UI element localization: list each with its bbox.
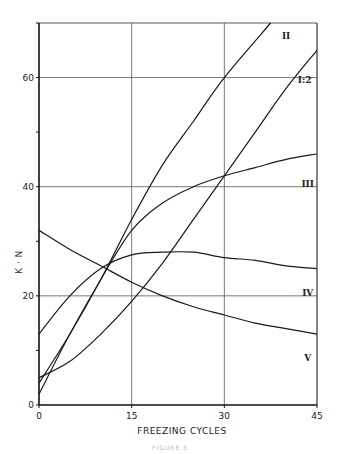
y-tick-label: 40	[23, 182, 35, 192]
y-tick-label: 0	[28, 400, 34, 410]
y-axis-title: K · N	[14, 250, 24, 274]
x-tick-label: 15	[126, 411, 137, 421]
series-label-ii: II	[282, 31, 290, 41]
line-chart: 02040600153045 III:2IIIIVV FREEZING CYCL…	[0, 0, 340, 454]
curve-v	[39, 230, 317, 334]
y-tick-label: 20	[23, 291, 35, 301]
series-label-iv: IV	[302, 288, 314, 298]
data-curves	[39, 23, 317, 394]
x-tick-label: 30	[219, 411, 231, 421]
series-label-i-2: I:2	[298, 75, 312, 85]
series-label-iii: III	[301, 179, 314, 189]
grid-lines	[39, 23, 317, 405]
x-axis-title: FREEZING CYCLES	[137, 426, 227, 436]
y-tick-label: 60	[23, 73, 35, 83]
axes	[36, 23, 317, 408]
x-tick-label: 0	[36, 411, 42, 421]
tick-labels: 02040600153045	[23, 73, 323, 421]
curve-ii	[39, 23, 271, 383]
series-label-v: V	[303, 353, 312, 363]
series-labels: III:2IIIIVV	[282, 31, 314, 363]
curve-iv	[39, 252, 317, 334]
curve-iii	[39, 154, 317, 394]
curve-i-2	[39, 50, 317, 377]
figure-caption: FIGURE 5	[0, 444, 340, 451]
x-tick-label: 45	[311, 411, 322, 421]
